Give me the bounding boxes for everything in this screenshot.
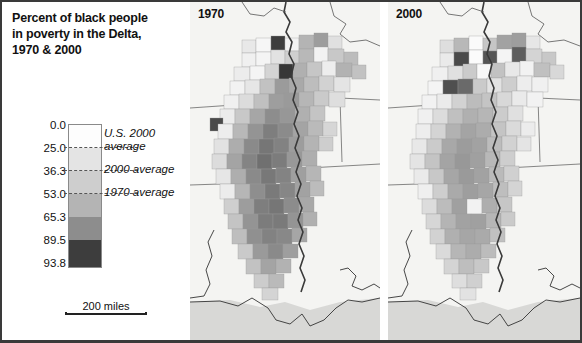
scale-bar-line xyxy=(65,313,147,315)
scale-bar: 200 miles xyxy=(65,302,147,318)
legend-note-us-2000-line2: average xyxy=(104,140,146,153)
legend-value-3: 53.0 xyxy=(44,189,66,200)
title-line-1: Percent of black people xyxy=(12,10,184,26)
map-year-label-1970: 1970 xyxy=(198,7,224,21)
legend-value-0: 0.0 xyxy=(50,120,66,131)
figure-container: Percent of black people in poverty in th… xyxy=(0,0,582,343)
legend-band-0 xyxy=(69,125,101,148)
legend-color-ramp xyxy=(68,124,102,268)
legend-band-2 xyxy=(69,171,101,194)
legend-note-1970-average: 1970 average xyxy=(104,186,174,199)
legend-band-5 xyxy=(69,240,101,267)
figure-title: Percent of black people in poverty in th… xyxy=(12,10,184,58)
legend-band-4 xyxy=(69,217,101,240)
legend: 0.0 25.0 36.3 53.0 65.3 89.5 93.8 U.S. 2… xyxy=(26,120,186,272)
legend-note-us-2000-line1: U.S. 2000 xyxy=(104,127,155,140)
choropleth-map-1970 xyxy=(190,2,380,340)
legend-value-5: 89.5 xyxy=(44,235,66,246)
map-panel-1970: 1970 xyxy=(190,2,380,340)
title-line-3: 1970 & 2000 xyxy=(12,42,184,58)
scale-bar-label: 200 miles xyxy=(65,300,147,312)
choropleth-map-2000 xyxy=(388,2,580,340)
legend-value-4: 65.3 xyxy=(44,212,66,223)
legend-value-1: 25.0 xyxy=(44,143,66,154)
legend-value-2: 36.3 xyxy=(44,166,66,177)
info-panel: Percent of black people in poverty in th… xyxy=(2,2,190,340)
legend-band-3 xyxy=(69,194,101,217)
legend-note-2000-average: 2000 average xyxy=(104,163,174,176)
map-panel-2000: 2000 xyxy=(388,2,580,340)
map-year-label-2000: 2000 xyxy=(396,7,422,21)
title-line-2: in poverty in the Delta, xyxy=(12,26,184,42)
legend-value-labels: 0.0 25.0 36.3 53.0 65.3 89.5 93.8 xyxy=(26,120,66,272)
panel-divider xyxy=(380,2,388,340)
legend-value-6: 93.8 xyxy=(44,258,66,269)
legend-band-1 xyxy=(69,148,101,171)
